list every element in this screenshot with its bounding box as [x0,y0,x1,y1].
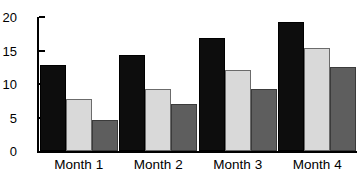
y-tick-label: 15 [3,44,17,57]
x-axis-category-label: Month 1 [54,156,103,174]
x-axis-line [37,151,357,153]
bar [251,89,277,151]
bar [66,99,92,151]
bar-group [278,17,356,151]
plot-area [39,17,357,151]
bar-group [119,17,197,151]
y-tick-label: 5 [10,111,17,124]
y-tick-label: 20 [3,11,17,24]
bar [119,55,145,151]
bar [171,104,197,151]
y-tick-label: 0 [10,145,17,158]
x-axis-category-label: Month 3 [213,156,262,174]
bar-chart: 05101520 Month 1Month 2Month 3Month 4 [0,0,359,182]
bar [330,67,356,151]
bar [92,120,118,151]
y-tick-label: 10 [3,78,17,91]
bar [225,70,251,151]
x-axis-category-label: Month 4 [293,156,342,174]
bar [304,48,330,151]
x-axis-labels: Month 1Month 2Month 3Month 4 [39,156,357,178]
bar-group [40,17,118,151]
bar [40,65,66,151]
y-axis: 05101520 [0,0,40,182]
bar [278,22,304,151]
bar [199,38,225,151]
bar [145,89,171,151]
bar-group [199,17,277,151]
x-axis-category-label: Month 2 [134,156,183,174]
